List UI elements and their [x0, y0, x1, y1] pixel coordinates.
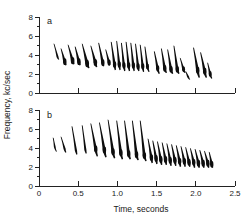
note-core: [94, 146, 97, 153]
x-tick-label: 0: [37, 189, 42, 198]
note-core: [169, 66, 172, 73]
y-tick-label: 6: [29, 32, 34, 41]
note-core: [71, 57, 75, 64]
note-core: [164, 156, 167, 163]
note-core: [101, 59, 104, 66]
note-core: [113, 61, 116, 68]
axis-labels: Frequency, kc/sec Time, seconds a b: [2, 16, 168, 214]
y-tick-label: 6: [29, 125, 34, 134]
note-core: [203, 68, 207, 75]
note-trace: [185, 71, 190, 80]
note-core: [118, 61, 121, 67]
note-core: [150, 154, 153, 161]
note-core: [182, 66, 185, 72]
x-tick-label: 2.5: [229, 189, 241, 198]
note-trace: [82, 125, 87, 154]
sonogram-figure: 024680246800.51.01.52.02.5 Frequency, kc…: [0, 0, 252, 218]
note-trace: [61, 137, 67, 153]
note-core: [206, 160, 209, 167]
note-core: [119, 149, 123, 156]
y-tick-label: 8: [29, 13, 34, 22]
note-core: [169, 157, 172, 164]
x-axis-title: Time, seconds: [114, 204, 169, 214]
note-core: [63, 58, 66, 65]
note-core: [135, 151, 139, 158]
note-core: [122, 62, 125, 68]
note-core: [103, 146, 107, 153]
note-trace: [193, 47, 200, 77]
note-core: [163, 65, 166, 72]
note-trace: [54, 44, 60, 60]
note-core: [176, 66, 179, 73]
x-tick-label: 1.5: [151, 189, 163, 198]
note-core: [136, 63, 139, 69]
note-core: [209, 71, 212, 77]
y-axis-title: Frequency, kc/sec: [2, 70, 12, 139]
panel-a-traces: [54, 41, 213, 80]
note-core: [196, 67, 200, 74]
y-tick-label: 2: [29, 70, 34, 79]
x-tick-label: 1.0: [112, 189, 124, 198]
y-tick-label: 2: [29, 163, 34, 172]
axes: 024680246800.51.01.52.02.5: [29, 13, 242, 198]
x-tick-label: 2.0: [190, 189, 202, 198]
note-core: [111, 148, 115, 155]
note-core: [141, 63, 144, 69]
note-core: [143, 152, 147, 159]
note-core: [178, 158, 181, 165]
note-core: [85, 60, 89, 68]
panel-a-letter: a: [47, 16, 52, 26]
panel-b-traces: [53, 120, 214, 168]
note-core: [192, 159, 195, 166]
note-core: [94, 59, 98, 66]
note-core: [77, 58, 81, 65]
y-tick-label: 4: [29, 144, 34, 153]
note-core: [197, 160, 200, 167]
note-core: [187, 159, 190, 166]
x-tick-label: 0.5: [73, 189, 85, 198]
note-trace: [72, 126, 78, 154]
note-core: [173, 157, 176, 164]
note-core: [201, 160, 204, 167]
panel-b-letter: b: [47, 110, 52, 120]
note-trace: [200, 52, 207, 78]
note-core: [154, 155, 157, 162]
note-core: [156, 65, 159, 71]
note-core: [146, 63, 149, 69]
figure-root: 024680246800.51.01.52.02.5 Frequency, kc…: [0, 0, 252, 218]
y-tick-label: 4: [29, 51, 34, 60]
y-tick-label: 0: [29, 89, 34, 98]
note-core: [127, 62, 130, 68]
y-tick-label: 8: [29, 106, 34, 115]
note-core: [127, 150, 131, 157]
note-core: [132, 62, 135, 68]
note-trace: [90, 123, 98, 156]
note-core: [159, 156, 162, 163]
y-tick-label: 0: [29, 182, 34, 191]
note-core: [210, 161, 213, 168]
note-core: [107, 59, 110, 65]
note-core: [183, 158, 186, 165]
note-trace: [53, 138, 57, 152]
